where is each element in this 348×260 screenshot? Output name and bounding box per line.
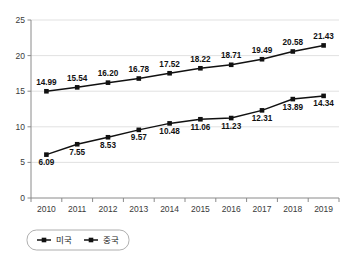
x-tick-label: 2016 bbox=[222, 204, 241, 214]
legend-marker-square-1 bbox=[42, 238, 47, 243]
x-tick-label: 2012 bbox=[99, 204, 118, 214]
data-point-marker bbox=[167, 71, 172, 76]
data-point-label: 6.09 bbox=[38, 158, 54, 167]
data-point-label: 16.78 bbox=[129, 65, 150, 74]
data-point-marker bbox=[137, 128, 142, 133]
data-point-label: 11.06 bbox=[190, 123, 210, 132]
y-tick-label: 0 bbox=[20, 193, 25, 203]
data-point-marker bbox=[198, 66, 203, 71]
legend-label-2[interactable]: 중국 bbox=[103, 235, 119, 245]
x-tick-label: 2010 bbox=[37, 204, 56, 214]
x-tick-label: 2018 bbox=[283, 204, 302, 214]
data-point-marker bbox=[44, 152, 49, 157]
legend-label-1[interactable]: 미국 bbox=[56, 235, 72, 245]
x-tick-label: 2015 bbox=[191, 204, 210, 214]
y-tick-label: 10 bbox=[16, 122, 26, 132]
data-point-marker bbox=[321, 94, 326, 99]
data-point-label: 15.54 bbox=[67, 74, 88, 83]
y-tick-label: 15 bbox=[16, 86, 26, 96]
data-point-label: 18.22 bbox=[190, 55, 211, 64]
data-point-label: 14.34 bbox=[313, 99, 334, 108]
data-point-marker bbox=[106, 80, 111, 85]
data-point-label: 7.55 bbox=[69, 148, 85, 157]
data-point-marker bbox=[321, 43, 326, 48]
data-point-label: 9.57 bbox=[131, 133, 147, 142]
y-tick-label: 25 bbox=[16, 15, 26, 25]
y-tick-label: 5 bbox=[20, 157, 25, 167]
data-point-marker bbox=[229, 116, 234, 121]
data-point-label: 19.49 bbox=[252, 46, 273, 55]
data-point-label: 21.43 bbox=[313, 32, 334, 41]
x-tick-label: 2019 bbox=[314, 204, 333, 214]
data-point-label: 12.31 bbox=[252, 114, 273, 123]
data-point-label: 17.52 bbox=[159, 60, 180, 69]
data-point-marker bbox=[44, 89, 49, 94]
data-point-marker bbox=[260, 108, 265, 113]
data-point-marker bbox=[198, 117, 203, 122]
data-point-label: 20.58 bbox=[283, 38, 304, 47]
data-point-marker bbox=[260, 57, 265, 62]
data-point-label: 11.23 bbox=[221, 122, 241, 131]
data-point-marker bbox=[291, 49, 296, 54]
data-point-label: 10.48 bbox=[159, 127, 180, 136]
data-point-marker bbox=[167, 121, 172, 126]
data-point-label: 16.20 bbox=[98, 69, 119, 78]
x-tick-label: 2014 bbox=[160, 204, 179, 214]
data-point-marker bbox=[291, 97, 296, 102]
x-tick-label: 2017 bbox=[253, 204, 272, 214]
data-point-label: 13.89 bbox=[283, 103, 304, 112]
data-point-label: 8.53 bbox=[100, 141, 116, 150]
line-chart: 0510152025 20102011201220132014201520162… bbox=[0, 0, 348, 260]
legend-marker-square-2 bbox=[89, 238, 94, 243]
y-tick-label: 20 bbox=[16, 51, 26, 61]
x-tick-label: 2011 bbox=[68, 204, 87, 214]
data-point-marker bbox=[106, 135, 111, 140]
data-point-label: 14.99 bbox=[36, 78, 57, 87]
chart-canvas: 0510152025 20102011201220132014201520162… bbox=[0, 0, 348, 260]
data-point-marker bbox=[75, 85, 80, 90]
data-point-label: 18.71 bbox=[221, 51, 242, 60]
data-point-marker bbox=[137, 76, 142, 81]
data-point-marker bbox=[75, 142, 80, 147]
x-tick-label: 2013 bbox=[129, 204, 148, 214]
data-point-marker bbox=[229, 62, 234, 67]
chart-legend[interactable]: 미국중국 bbox=[27, 230, 129, 250]
